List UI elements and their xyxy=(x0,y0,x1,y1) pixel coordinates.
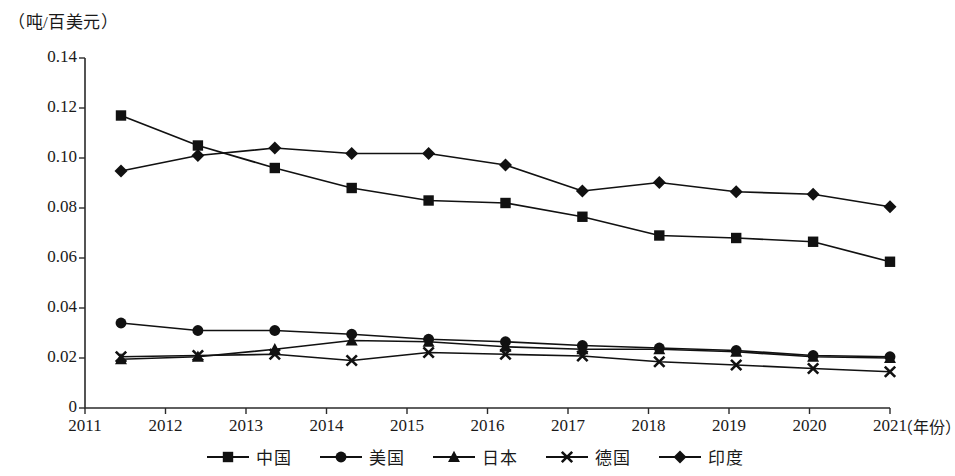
legend-label: 中国 xyxy=(256,444,292,469)
series-lines xyxy=(115,110,897,377)
legend-label: 德国 xyxy=(595,444,631,469)
legend-marker-triangle-icon xyxy=(431,447,477,467)
legend-marker-square-icon xyxy=(205,447,251,467)
legend-item-triangle[interactable]: 日本 xyxy=(431,444,518,469)
legend-marker-x-icon xyxy=(544,447,590,467)
legend-label: 日本 xyxy=(482,444,518,469)
legend-item-square[interactable]: 中国 xyxy=(205,444,292,469)
legend-label: 印度 xyxy=(708,444,744,469)
legend-marker-circle-icon xyxy=(318,447,364,467)
legend-marker-diamond-icon xyxy=(657,447,703,467)
series-x xyxy=(116,347,895,377)
legend-label: 美国 xyxy=(369,444,405,469)
chart-legend: 中国美国日本德国印度 xyxy=(0,444,949,469)
legend-item-x[interactable]: 德国 xyxy=(544,444,631,469)
legend-item-diamond[interactable]: 印度 xyxy=(657,444,744,469)
series-square xyxy=(116,110,895,267)
legend-item-circle[interactable]: 美国 xyxy=(318,444,405,469)
